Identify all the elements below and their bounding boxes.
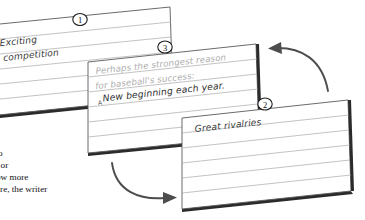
- body-text-line-1: o: [0, 148, 3, 159]
- card-two-badge-number: 2: [263, 100, 267, 110]
- card-one-badge: 1: [73, 14, 87, 26]
- card-two-face: [182, 100, 351, 209]
- diagram-canvas: 1 Exciting competition 3: [0, 0, 365, 220]
- card-three-badge-number: 3: [163, 43, 167, 53]
- arrow-card-three-to-card-two: [112, 163, 177, 204]
- body-text-line-2: , or: [0, 160, 8, 171]
- card-one-badge-number: 1: [78, 15, 82, 25]
- card-two-badge: 2: [258, 98, 272, 110]
- body-text-line-4: ere, the writer: [0, 184, 47, 195]
- body-text-line-3: ow more: [0, 172, 28, 183]
- arrow-card-two-to-card-three: [268, 42, 328, 91]
- index-card-diagram: 1 Exciting competition 3: [0, 0, 365, 220]
- card-three-badge: 3: [158, 41, 172, 53]
- card-two-group[interactable]: 2 Great rivalries: [182, 98, 354, 212]
